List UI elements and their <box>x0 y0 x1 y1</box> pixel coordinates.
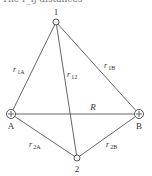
label-r2B: r2B <box>106 140 117 150</box>
label-r1A: r1A <box>13 65 25 75</box>
h2-molecule-distance-diagram: 1 2 A B r1A r1B r12 R r2A r2B <box>0 0 152 176</box>
label-r2A: r2A <box>29 140 41 150</box>
label-electron-1: 1 <box>54 7 59 17</box>
edge-r2A <box>11 114 77 158</box>
label-nucleus-B: B <box>136 121 142 131</box>
label-nucleus-A: A <box>8 121 15 131</box>
label-r12: r12 <box>67 70 77 80</box>
label-R: R <box>89 102 96 112</box>
nucleus-A-plus-icon <box>7 110 16 119</box>
edge-r2B <box>77 114 139 158</box>
nucleus-B-plus-icon <box>135 110 144 119</box>
label-r1B: r1B <box>104 61 115 71</box>
electron-2-node-icon <box>74 155 80 161</box>
electron-1-node-icon <box>53 19 59 25</box>
label-electron-2: 2 <box>75 164 80 174</box>
